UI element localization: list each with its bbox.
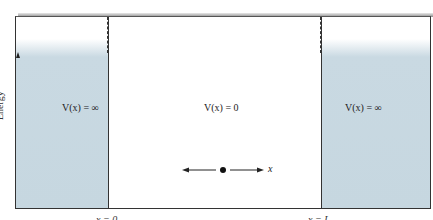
particle-dot-icon xyxy=(220,167,226,173)
energy-axis-arrow-icon xyxy=(16,52,20,58)
left-arrow-head-icon xyxy=(182,168,189,173)
left-wall-dashed-line xyxy=(107,17,108,53)
energy-axis-label: Energy xyxy=(0,91,5,120)
right-arrow-head-icon xyxy=(257,168,264,173)
particle-x-label: x xyxy=(268,163,272,174)
boundary-label-x0: x = 0 xyxy=(96,214,117,220)
left-potential-label: V(x) = ∞ xyxy=(62,102,99,113)
potential-well-diagram: V(x) = ∞ V(x) = 0 V(x) = ∞ xyxy=(15,16,431,209)
right-wall-dashed-line xyxy=(320,17,321,53)
right-potential-label: V(x) = ∞ xyxy=(345,102,382,113)
particle-motion-diagram xyxy=(180,160,280,180)
middle-potential-label: V(x) = 0 xyxy=(204,102,239,113)
boundary-label-xL: x = L xyxy=(308,214,330,220)
